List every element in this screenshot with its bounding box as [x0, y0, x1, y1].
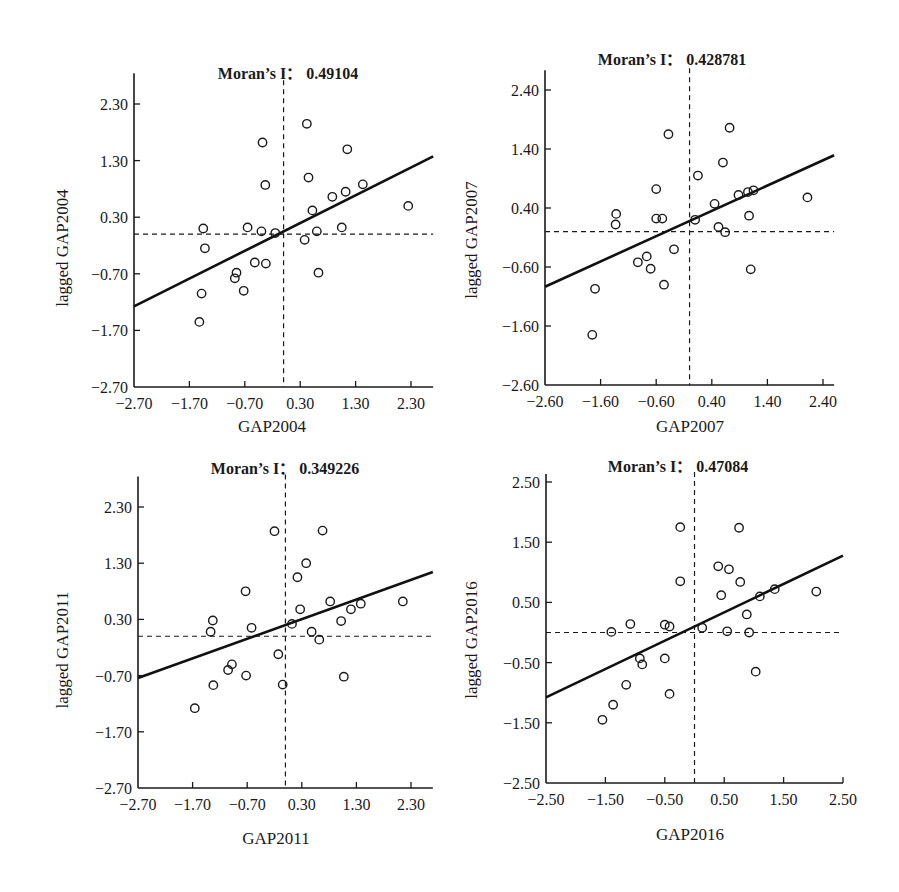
data-point — [206, 628, 214, 636]
data-point — [300, 236, 308, 244]
data-point — [304, 173, 312, 181]
data-point — [341, 188, 349, 196]
data-point — [209, 616, 217, 624]
y-tick-label: 1.40 — [511, 141, 539, 158]
data-point — [646, 265, 654, 273]
data-point — [634, 258, 642, 266]
data-point — [326, 597, 334, 605]
data-point — [197, 289, 205, 297]
data-point — [357, 599, 365, 607]
data-point — [751, 667, 759, 675]
y-tick-label: 0.40 — [511, 200, 539, 217]
data-point — [745, 211, 753, 219]
x-tick-label: −1.70 — [174, 796, 211, 813]
x-tick-label: −0.50 — [646, 791, 683, 808]
data-point — [302, 559, 310, 567]
y-axis-label: lagged GAP2011 — [53, 592, 72, 709]
data-point — [609, 701, 617, 709]
data-point — [195, 318, 203, 326]
data-point — [191, 704, 199, 712]
y-tick-label: 2.40 — [511, 82, 539, 99]
y-tick-label: 0.30 — [104, 611, 132, 628]
x-tick-label: 2.50 — [829, 791, 857, 808]
x-tick-label: −1.60 — [582, 393, 619, 410]
data-point — [337, 617, 345, 625]
data-point — [588, 331, 596, 339]
y-tick-label: 2.50 — [512, 474, 540, 491]
data-point — [347, 605, 355, 613]
data-point — [242, 671, 250, 679]
x-axis-label: GAP2007 — [656, 417, 725, 436]
y-tick-label: 2.30 — [100, 96, 128, 113]
data-point — [652, 185, 660, 193]
data-point — [343, 145, 351, 153]
data-point — [735, 524, 743, 532]
x-tick-label: −1.50 — [587, 791, 624, 808]
x-tick-label: −0.70 — [226, 395, 263, 412]
data-point — [803, 193, 811, 201]
x-tick-label: 0.40 — [698, 393, 726, 410]
panel-gap2016: Moran’s I：0.47084 lagged GAP2016 GAP2016… — [462, 458, 857, 844]
y-axis-label: lagged GAP2004 — [53, 189, 72, 307]
data-point — [359, 180, 367, 188]
y-tick-label: 2.30 — [104, 499, 132, 516]
data-point — [676, 577, 684, 585]
data-point — [243, 223, 251, 231]
chart-title: Moran’s I：0.47084 — [608, 458, 748, 475]
panel-gap2007: Moran’s I：0.428781 lagged GAP2007 GAP200… — [462, 51, 837, 436]
x-tick-label: 2.40 — [809, 393, 837, 410]
x-tick-label: −2.60 — [526, 393, 563, 410]
x-tick-label: 2.30 — [397, 395, 425, 412]
data-point — [308, 206, 316, 214]
panel-gap2011: Moran’s I：0.349226 lagged GAP2011 GAP201… — [53, 460, 433, 848]
data-point — [710, 200, 718, 208]
data-point — [719, 158, 727, 166]
data-point — [714, 562, 722, 570]
data-point — [258, 138, 266, 146]
y-tick-label: −0.70 — [91, 266, 128, 283]
chart-title: Moran’s I：0.428781 — [598, 51, 746, 68]
x-tick-label: −2.70 — [119, 796, 156, 813]
y-axis-label: lagged GAP2016 — [462, 581, 481, 699]
data-point — [261, 181, 269, 189]
data-point — [661, 654, 669, 662]
data-point — [247, 624, 255, 632]
data-point — [676, 523, 684, 531]
y-tick-label: −2.70 — [91, 379, 128, 396]
data-point — [664, 130, 672, 138]
y-tick-label: −2.60 — [502, 377, 539, 394]
data-point — [262, 259, 270, 267]
data-point — [231, 274, 239, 282]
data-point — [660, 281, 668, 289]
x-tick-label: −1.70 — [171, 395, 208, 412]
data-point — [209, 681, 217, 689]
regression-line — [134, 156, 433, 306]
chart-title: Moran’s I：0.349226 — [211, 460, 359, 477]
x-tick-label: 1.30 — [342, 796, 370, 813]
data-point — [270, 527, 278, 535]
data-point — [736, 578, 744, 586]
data-point — [717, 591, 725, 599]
data-point — [199, 224, 207, 232]
moran-scatter-figure: Moran’s I：0.49104 lagged GAP2004 GAP2004… — [0, 0, 899, 892]
data-point — [611, 220, 619, 228]
data-point — [399, 597, 407, 605]
data-point — [340, 673, 348, 681]
data-point — [670, 245, 678, 253]
y-tick-label: 1.30 — [104, 555, 132, 572]
y-tick-label: −1.60 — [502, 318, 539, 335]
x-tick-label: 0.30 — [286, 395, 314, 412]
y-tick-label: −0.60 — [502, 259, 539, 276]
x-tick-label: 0.50 — [710, 791, 738, 808]
y-tick-label: −1.70 — [95, 724, 132, 741]
x-tick-label: −2.70 — [115, 395, 152, 412]
data-point — [622, 681, 630, 689]
data-point — [743, 610, 751, 618]
data-point — [698, 623, 706, 631]
x-tick-label: −2.50 — [527, 791, 564, 808]
y-tick-label: 0.50 — [512, 594, 540, 611]
data-point — [314, 268, 322, 276]
data-point — [293, 573, 301, 581]
data-point — [725, 565, 733, 573]
data-point — [812, 587, 820, 595]
